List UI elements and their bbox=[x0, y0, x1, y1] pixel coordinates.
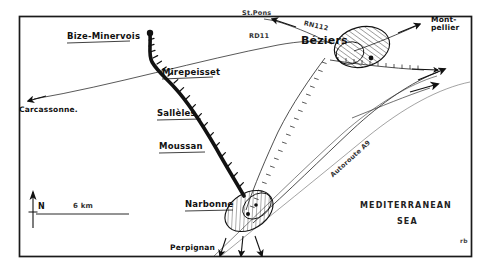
narbonne-urban-area bbox=[217, 182, 280, 240]
coastline bbox=[221, 82, 470, 256]
perpignan-arrows bbox=[220, 236, 262, 256]
town-label-mirepeisset: Mirepeisset bbox=[162, 68, 220, 77]
scale-bar-label: 6 km bbox=[73, 203, 93, 210]
railway-beziers-narbonne bbox=[246, 58, 327, 210]
town-label-salleles: Sallèles bbox=[157, 109, 196, 118]
external-label-perpignan: Perpignan bbox=[170, 244, 215, 252]
road-label-rd11: RD11 bbox=[249, 33, 269, 40]
road-autoroute-a9 bbox=[253, 69, 445, 223]
external-label-carcassonne: Carcassonne. bbox=[19, 106, 78, 114]
map-figure: Bize-Minervois Mirepeisset Sallèles Mous… bbox=[0, 0, 486, 273]
town-label-bize-minervois: Bize-Minervois bbox=[67, 32, 140, 41]
sea-label-sea: SEA bbox=[397, 218, 418, 226]
town-label-moussan: Moussan bbox=[159, 142, 203, 151]
north-arrow bbox=[29, 190, 38, 228]
town-label-narbonne: Narbonne bbox=[185, 200, 233, 209]
sea-label-mediterranean: MEDITERRANEAN bbox=[360, 202, 452, 210]
town-label-beziers: Béziers bbox=[301, 35, 348, 47]
beziers-urban-area bbox=[330, 21, 394, 73]
external-label-montpellier: Mont- pellier bbox=[431, 16, 459, 32]
external-label-st-pons: St.Pons bbox=[242, 10, 271, 17]
north-arrow-label: N bbox=[38, 203, 45, 211]
signature-label: rb bbox=[460, 238, 468, 244]
montpellier-lower-arrow bbox=[352, 84, 438, 118]
